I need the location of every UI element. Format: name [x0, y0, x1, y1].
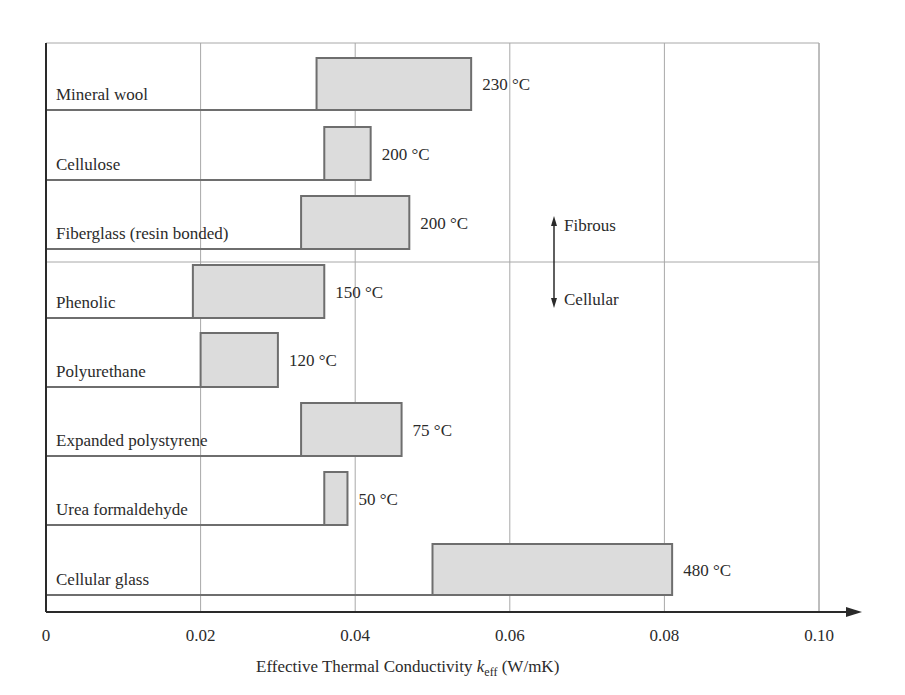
material-label: Phenolic [56, 294, 116, 311]
max-temperature-label: 200 °C [382, 146, 430, 163]
group-label-fibrous: Fibrous [564, 217, 616, 234]
x-axis-title-subscript: eff [484, 665, 497, 679]
range-bar [433, 544, 673, 595]
max-temperature-label: 120 °C [289, 352, 337, 369]
thermal-conductivity-chart: Mineral wool230 °CCellulose200 °CFibergl… [0, 0, 905, 695]
max-temperature-label: 150 °C [335, 284, 383, 301]
arrow-down-icon [551, 298, 557, 308]
x-tick-label: 0.06 [495, 627, 525, 644]
material-label: Urea formaldehyde [56, 501, 188, 518]
max-temperature-label: 200 °C [420, 215, 468, 232]
max-temperature-label: 480 °C [683, 562, 731, 579]
range-bar [317, 58, 472, 110]
x-tick-label: 0.08 [650, 627, 680, 644]
gridlines [46, 43, 819, 612]
material-label: Polyurethane [56, 363, 146, 380]
x-tick-label: 0.02 [186, 627, 216, 644]
max-temperature-label: 75 °C [413, 422, 452, 439]
range-bar [324, 127, 370, 180]
max-temperature-label: 230 °C [482, 76, 530, 93]
max-temperature-label: 50 °C [358, 491, 397, 508]
range-bar [301, 196, 409, 249]
group-label-cellular: Cellular [564, 291, 619, 308]
range-bar [324, 472, 347, 525]
x-tick-label: 0.04 [340, 627, 370, 644]
range-bar [201, 333, 278, 387]
material-label: Cellular glass [56, 571, 149, 588]
material-label: Cellulose [56, 156, 120, 173]
range-bar [301, 403, 401, 456]
plot-area [0, 0, 905, 695]
x-tick-label: 0 [42, 627, 51, 644]
arrow-up-icon [551, 216, 557, 226]
material-label: Fiberglass (resin bonded) [56, 225, 229, 242]
x-axis-title: Effective Thermal Conductivity keff (W/m… [256, 658, 559, 678]
x-axis-arrow-icon [846, 607, 862, 617]
x-axis-title-suffix: (W/mK) [497, 657, 559, 676]
range-bars [193, 58, 672, 595]
range-bar [193, 265, 324, 318]
x-tick-label: 0.10 [804, 627, 834, 644]
material-label: Mineral wool [56, 86, 148, 103]
x-axis-title-prefix: Effective Thermal Conductivity [256, 657, 477, 676]
material-label: Expanded polystyrene [56, 432, 208, 449]
axes [46, 43, 862, 617]
